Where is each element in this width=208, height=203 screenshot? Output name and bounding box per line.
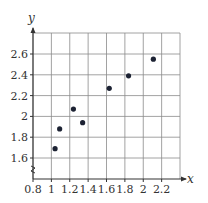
y-tick-label: 2.2 [11, 90, 29, 103]
y-axis-label: y [27, 11, 35, 25]
y-tick-label: 1.8 [11, 131, 29, 144]
y-tick-label: 2.6 [11, 48, 29, 61]
y-tick-label: 2 [21, 110, 28, 123]
axis-break-icon [31, 166, 35, 173]
data-point [126, 73, 131, 78]
x-tick-label: 2 [140, 183, 147, 196]
axes [30, 27, 187, 182]
x-tick-labels: 0.811.21.41.61.822.2 [24, 183, 170, 196]
x-tick-label: 0.8 [24, 183, 42, 196]
data-point [57, 126, 62, 131]
y-tick-labels: 1.61.822.22.42.6 [11, 48, 29, 165]
y-axis-arrow-icon [31, 27, 36, 33]
data-point [80, 120, 85, 125]
x-tick-label: 1.2 [61, 183, 79, 196]
data-point [151, 57, 156, 62]
grid-lines [33, 33, 180, 179]
data-point [107, 86, 112, 91]
y-tick-label: 1.6 [11, 152, 29, 165]
data-point [52, 146, 57, 151]
x-tick-label: 1.6 [98, 183, 116, 196]
scatter-chart: 0.811.21.41.61.822.2 1.61.822.22.42.6 x … [0, 0, 208, 203]
y-tick-label: 2.4 [11, 69, 29, 82]
x-tick-label: 1 [48, 183, 55, 196]
x-tick-label: 1.4 [79, 183, 97, 196]
x-tick-label: 1.8 [116, 183, 134, 196]
x-axis-label: x [187, 172, 194, 186]
x-tick-label: 2.2 [153, 183, 171, 196]
data-point [71, 107, 76, 112]
